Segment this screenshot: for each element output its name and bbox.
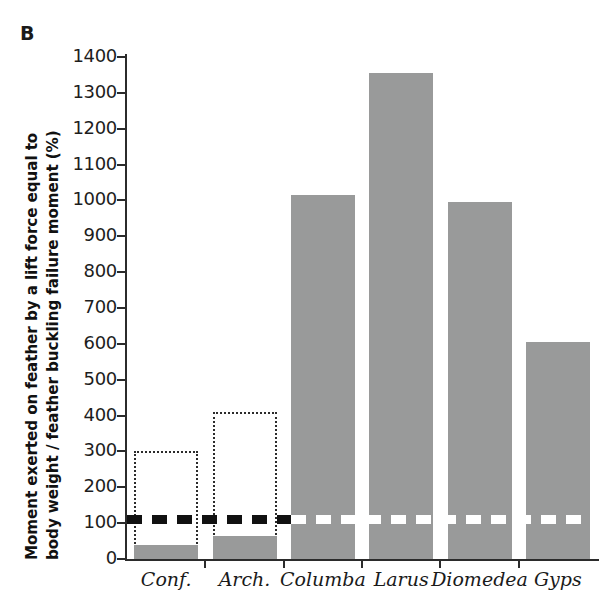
- y-tick-1300: [117, 92, 126, 94]
- y-tick-label-900: 900: [57, 224, 117, 245]
- y-tick-400: [117, 415, 126, 417]
- y-tick-label-300: 300: [57, 439, 117, 460]
- y-tick-label-700: 700: [57, 296, 117, 317]
- y-tick-100: [117, 522, 126, 524]
- bar-conf: [134, 545, 198, 559]
- y-tick-800: [117, 271, 126, 273]
- y-tick-label-1000: 1000: [57, 188, 117, 209]
- y-tick-900: [117, 235, 126, 237]
- y-tick-label-1100: 1100: [57, 153, 117, 174]
- bar-arch: [213, 536, 277, 559]
- y-tick-label-800: 800: [57, 260, 117, 281]
- x-tick-1: [204, 560, 206, 568]
- bar-diomedea: [448, 202, 512, 559]
- y-tick-200: [117, 486, 126, 488]
- y-axis-title: Moment exerted on feather by a lift forc…: [0, 0, 64, 597]
- y-tick-label-0: 0: [57, 547, 117, 568]
- plot-area: [127, 57, 597, 559]
- y-tick-1100: [117, 164, 126, 166]
- x-tick-5: [518, 560, 520, 568]
- error-box-conf: [134, 451, 198, 559]
- y-axis-title-line-1: Moment exerted on feather by a lift forc…: [23, 133, 41, 560]
- y-tick-label-1300: 1300: [57, 81, 117, 102]
- bar-columba: [291, 195, 355, 559]
- x-tick-2: [283, 560, 285, 568]
- figure-panel-b: B Moment exerted on feather by a lift fo…: [0, 0, 611, 597]
- y-tick-500: [117, 379, 126, 381]
- y-tick-label-100: 100: [57, 511, 117, 532]
- bar-larus: [369, 73, 433, 559]
- x-tick-4: [439, 560, 441, 568]
- y-tick-300: [117, 450, 126, 452]
- y-tick-0: [117, 558, 126, 560]
- y-tick-label-1200: 1200: [57, 117, 117, 138]
- threshold-line-light: [291, 515, 597, 524]
- bar-gyps: [526, 342, 590, 559]
- y-tick-label-600: 600: [57, 332, 117, 353]
- y-tick-label-400: 400: [57, 404, 117, 425]
- y-tick-600: [117, 343, 126, 345]
- threshold-line-dark: [127, 515, 291, 524]
- x-tick-3: [361, 560, 363, 568]
- y-tick-1400: [117, 56, 126, 58]
- y-tick-label-500: 500: [57, 368, 117, 389]
- y-tick-1200: [117, 128, 126, 130]
- x-category-label-gyps: Gyps: [498, 568, 611, 590]
- y-tick-1000: [117, 199, 126, 201]
- y-tick-700: [117, 307, 126, 309]
- y-tick-label-200: 200: [57, 475, 117, 496]
- y-tick-label-1400: 1400: [57, 45, 117, 66]
